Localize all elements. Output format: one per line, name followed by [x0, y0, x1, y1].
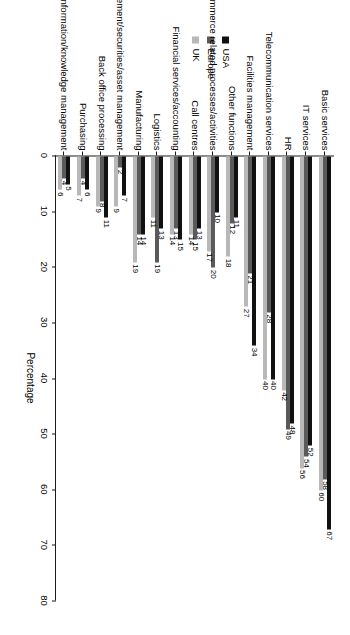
bar-value-label: 19 — [153, 264, 161, 273]
bar-value-label: 14 — [187, 236, 195, 245]
bar-group: Manufacturing141419 — [129, 156, 148, 262]
bar-europe: 13 — [174, 156, 178, 228]
category-label: Telecommunication services — [263, 31, 274, 156]
bar-europe: 2 — [118, 156, 122, 167]
bar-group: Telecommunication services402840 — [260, 156, 279, 379]
bar-usa: 34 — [252, 156, 256, 345]
category-tick — [249, 151, 250, 155]
bar-europe: 20 — [211, 156, 215, 267]
category-label: HR — [282, 136, 293, 156]
bar-europe: 12 — [230, 156, 234, 223]
bar-usa: 52 — [308, 156, 312, 445]
bar-europe: 15 — [193, 156, 197, 239]
bar-uk: 42 — [282, 156, 286, 390]
category-tick — [82, 151, 83, 155]
bar-group: Logistics131911 — [148, 156, 167, 262]
category-tick — [268, 151, 269, 155]
bar-usa: 13 — [159, 156, 163, 228]
bar-uk: 7 — [77, 156, 81, 195]
bar-value-label: 7 — [75, 197, 83, 201]
category-label: E-commerce related processes/activities — [208, 0, 219, 156]
category-label: Fund management/securities/asset managem… — [115, 0, 126, 156]
bar-group: Fund management/securities/asset managem… — [111, 156, 130, 206]
axis-tick-label: 50 — [39, 428, 50, 439]
category-tick — [231, 151, 232, 155]
bar-value-label: 49 — [284, 431, 292, 440]
bar-usa: 15 — [178, 156, 182, 239]
bar-value-label: 9 — [94, 208, 102, 212]
bar-group: Information/knowledge management546 — [55, 156, 74, 189]
bar-group: HR484942 — [278, 156, 297, 429]
bar-value-label: 56 — [298, 470, 306, 479]
bar-value-label: 40 — [269, 381, 277, 390]
legend-swatch-icon — [223, 36, 230, 43]
category-label: Financial services/accounting — [170, 26, 181, 156]
bar-europe: 8 — [100, 156, 104, 201]
axis-tick — [52, 378, 56, 379]
bar-value-label: 60 — [317, 492, 325, 501]
bar-group: IT services525456 — [297, 156, 316, 468]
bar-value-label: 19 — [131, 264, 139, 273]
bar-value-label: 34 — [250, 347, 258, 356]
bar-group: Back office processing1189 — [92, 156, 111, 217]
category-label: Information/knowledge management — [59, 0, 70, 156]
axis-tick-label: 60 — [39, 483, 50, 494]
value-axis-title: Percentage — [25, 155, 36, 600]
bar-value-label: 15 — [176, 241, 184, 250]
bar-uk: 18 — [226, 156, 230, 256]
bar-uk: 17 — [207, 156, 211, 251]
axis-tick — [52, 600, 56, 601]
category-tick — [156, 151, 157, 155]
bar-uk: 27 — [244, 156, 248, 306]
category-tick — [324, 151, 325, 155]
axis-tick — [52, 544, 56, 545]
bar-uk: 14 — [189, 156, 193, 234]
bar-usa: 7 — [122, 156, 126, 195]
axis-tick-label: 80 — [39, 595, 50, 606]
bar-uk: 40 — [263, 156, 267, 379]
axis-tick — [52, 322, 56, 323]
category-tick — [194, 151, 195, 155]
bar-europe: 54 — [304, 156, 308, 456]
category-label: Basic services — [319, 89, 330, 156]
rotated-figure: USAEuropeUK 01020304050607080 Percentage… — [0, 0, 350, 635]
bar-value-label: 17 — [205, 253, 213, 262]
bar-uk: 14 — [170, 156, 174, 234]
bar-group: Call centres131514 — [185, 156, 204, 239]
chart-canvas: USAEuropeUK 01020304050607080 Percentage… — [0, 0, 350, 635]
bar-value-label: 27 — [242, 308, 250, 317]
bar-value-label: 6 — [56, 191, 64, 195]
category-tick — [119, 151, 120, 155]
bar-usa: 48 — [290, 156, 294, 423]
bar-usa: 14 — [141, 156, 145, 234]
bar-value-label: 11 — [102, 219, 110, 227]
category-label: IT services — [301, 104, 312, 156]
axis-tick — [52, 489, 56, 490]
category-label: Back office processing — [96, 55, 107, 156]
bar-europe: 4 — [62, 156, 66, 178]
bar-value-label: 20 — [209, 269, 217, 278]
legend-item-usa: USA — [220, 36, 232, 79]
axis-tick-label: 10 — [39, 205, 50, 216]
bar-europe: 4 — [81, 156, 85, 178]
bar-europe: 49 — [286, 156, 290, 429]
bar-value-label: 5 — [64, 186, 72, 190]
axis-tick-label: 40 — [39, 372, 50, 383]
legend-label: USA — [221, 48, 231, 68]
bar-value-label: 7 — [120, 197, 128, 201]
bar-uk: 19 — [133, 156, 137, 262]
category-label: Purchasing — [77, 102, 88, 156]
bar-value-label: 40 — [261, 381, 269, 390]
bar-value-label: 14 — [168, 236, 176, 245]
bar-usa: 67 — [327, 156, 331, 529]
bar-group: Purchasing647 — [74, 156, 93, 195]
bar-value-label: 18 — [224, 258, 232, 267]
bar-europe: 14 — [137, 156, 141, 234]
axis-tick-label: 70 — [39, 539, 50, 550]
category-label: Call centres — [189, 100, 200, 156]
category-label: Other functions — [226, 86, 237, 156]
category-label: Manufacturing — [133, 90, 144, 156]
bar-group: Basic services675860 — [315, 156, 334, 529]
bar-europe: 58 — [323, 156, 327, 479]
category-tick — [175, 151, 176, 155]
